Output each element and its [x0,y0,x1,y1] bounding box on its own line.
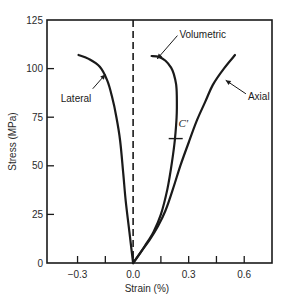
y-tick-label: 0 [37,258,43,269]
annotation-label: Volumetric [179,29,226,40]
y-tick-label: 125 [26,15,43,26]
x-tick-label: 0.3 [182,269,196,280]
annotation-axial: Axial [226,80,270,102]
annotation-label: Lateral [61,93,92,104]
annotation-lateral: Lateral [61,74,106,103]
y-tick-label: 100 [26,63,43,74]
annotation-c-prime: C' [169,117,189,139]
y-tick-label: 50 [32,160,44,171]
annotation-label: C' [178,117,188,129]
x-tick-label: 0.0 [126,269,140,280]
series-lateral-curve [79,55,134,263]
y-axis-label: Stress (MPa) [7,112,18,170]
y-axis-ticks: 0255075100125 [26,15,54,269]
arrow-head-icon [226,80,231,85]
chart-canvas: −0.30.00.30.6 0255075100125 LateralVolum… [0,0,286,302]
stress-strain-chart: −0.30.00.30.6 0255075100125 LateralVolum… [0,0,286,302]
x-axis-ticks: −0.30.00.30.6 [68,256,252,280]
data-series [79,55,236,263]
annotation-label: Axial [248,91,270,102]
y-tick-label: 25 [32,209,44,220]
annotations: LateralVolumetricAxialC' [61,29,270,139]
annotation-volumetric: Volumetric [157,29,226,59]
x-axis-label: Strain (%) [125,283,169,294]
y-tick-label: 75 [32,112,44,123]
series-axial-curve [133,55,235,263]
x-tick-label: −0.3 [68,269,88,280]
x-tick-label: 0.6 [237,269,251,280]
